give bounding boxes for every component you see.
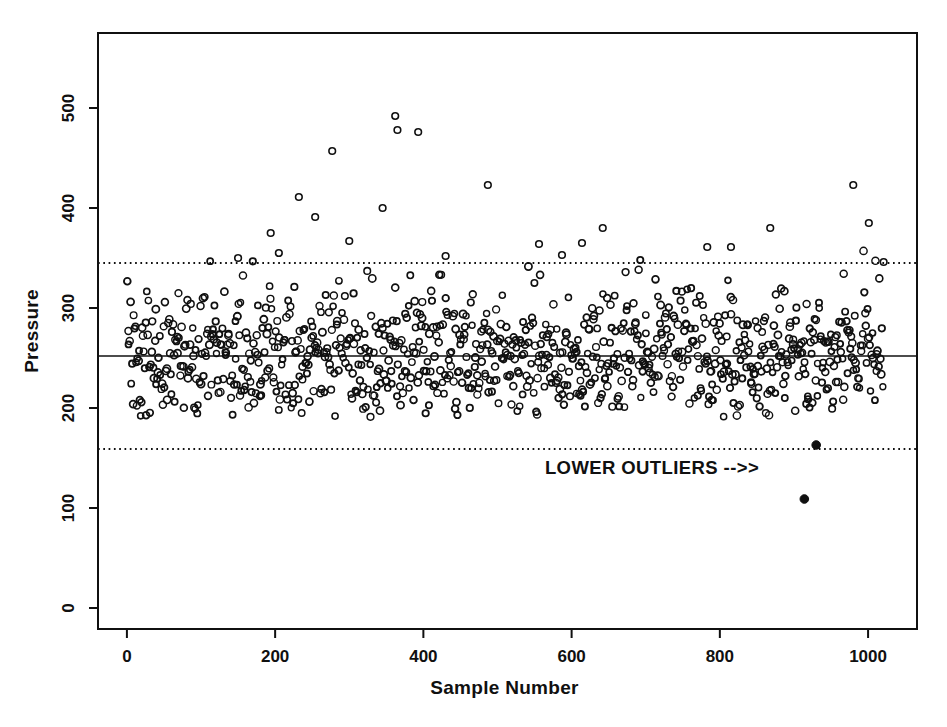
data-point: [339, 310, 345, 316]
data-point: [442, 295, 449, 302]
data-point: [674, 321, 681, 328]
data-point: [474, 391, 481, 398]
data-point: [607, 301, 614, 308]
data-point: [543, 321, 549, 327]
data-point: [866, 220, 873, 227]
data-point: [520, 391, 526, 397]
data-point: [841, 383, 848, 390]
data-point: [388, 368, 395, 375]
data-point: [337, 335, 344, 342]
data-point: [367, 361, 373, 367]
data-point: [842, 309, 848, 315]
data-point: [385, 357, 392, 364]
data-point: [733, 412, 740, 419]
data-point: [354, 335, 360, 341]
data-point: [759, 329, 766, 336]
data-point: [686, 400, 693, 407]
data-point: [149, 318, 156, 325]
data-point: [289, 390, 296, 397]
data-point: [143, 319, 149, 325]
data-point: [230, 412, 236, 418]
data-point: [829, 405, 836, 412]
data-point: [589, 305, 596, 312]
data-point: [772, 390, 778, 396]
data-point: [328, 386, 335, 393]
data-point: [530, 390, 536, 396]
chart-canvas: 02004006008001000 0100200300400500 Sampl…: [0, 0, 947, 727]
data-point: [407, 374, 414, 381]
data-point: [630, 300, 637, 307]
data-point: [428, 287, 435, 294]
data-point: [265, 324, 271, 330]
data-point: [261, 349, 267, 355]
data-point: [394, 127, 401, 134]
data-point: [559, 252, 566, 259]
data-point: [349, 395, 356, 402]
data-point: [484, 341, 491, 348]
data-point: [772, 291, 779, 298]
data-point: [481, 320, 487, 326]
data-point: [239, 272, 246, 279]
data-point: [665, 341, 672, 348]
data-point: [397, 383, 404, 390]
data-point: [534, 375, 541, 382]
data-point: [604, 382, 611, 389]
data-point: [329, 148, 336, 155]
lower-outlier-points: [800, 441, 820, 504]
x-axis-tick-labels: 02004006008001000: [122, 647, 887, 666]
data-point: [236, 332, 243, 339]
data-point: [747, 341, 753, 347]
data-point: [128, 381, 134, 387]
data-point: [611, 292, 617, 298]
y-tick-label: 400: [59, 194, 78, 222]
data-point: [520, 319, 526, 325]
y-axis-tick-labels: 0100200300400500: [59, 94, 78, 613]
data-point: [392, 284, 399, 291]
data-point: [454, 412, 460, 418]
data-point: [679, 363, 686, 370]
data-point: [336, 278, 342, 284]
data-point: [770, 322, 777, 329]
data-point: [373, 399, 380, 406]
data-point: [407, 272, 413, 278]
data-point: [346, 238, 353, 245]
data-point: [862, 322, 869, 329]
data-point: [426, 402, 432, 408]
data-point: [852, 313, 858, 319]
data-point: [263, 330, 270, 337]
scatter-points: [124, 247, 886, 420]
data-point: [508, 401, 515, 408]
data-point: [657, 321, 663, 327]
data-point: [606, 369, 612, 375]
data-point: [397, 402, 404, 409]
data-point: [350, 290, 356, 296]
data-point: [837, 349, 844, 356]
data-point: [414, 379, 421, 386]
data-point: [583, 314, 590, 321]
data-point: [579, 240, 586, 247]
data-point: [782, 373, 789, 380]
data-point: [469, 322, 475, 328]
data-point: [510, 383, 517, 390]
y-tick-label: 500: [59, 94, 78, 122]
data-point: [235, 255, 242, 262]
data-point: [278, 382, 284, 388]
data-point: [193, 347, 199, 353]
data-point: [250, 399, 257, 406]
data-point: [325, 309, 332, 316]
data-point: [774, 331, 781, 338]
data-point: [332, 413, 338, 419]
data-point: [175, 290, 182, 297]
data-point: [255, 359, 262, 366]
data-point: [739, 375, 745, 381]
data-point: [664, 361, 671, 368]
data-point: [472, 364, 478, 370]
data-point: [379, 205, 386, 212]
data-point: [148, 348, 155, 355]
data-point: [291, 284, 298, 291]
data-point: [208, 381, 215, 388]
data-point: [330, 303, 336, 309]
data-point: [442, 253, 449, 260]
data-point: [130, 312, 137, 319]
data-point: [484, 310, 490, 316]
